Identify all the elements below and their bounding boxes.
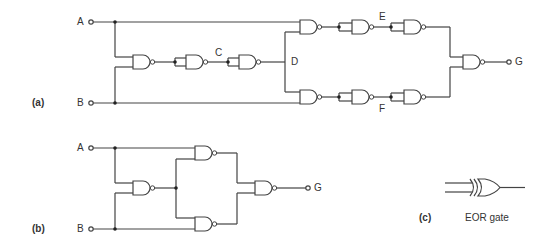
circuit-drawing [0, 0, 554, 243]
logic-diagram: A B C D E F G (a) A B G (b) (c) EOR gate [0, 0, 554, 243]
part-b-label: (b) [32, 224, 45, 234]
node-c-label: C [215, 48, 222, 58]
input-b-label: B [77, 98, 84, 108]
input-a-label-b: A [77, 143, 84, 153]
output-g-label-b: G [314, 183, 322, 193]
junction-dots [113, 20, 393, 231]
eor-gate-caption: EOR gate [465, 213, 509, 223]
input-a-label: A [77, 17, 84, 27]
part-c-label: (c) [419, 213, 431, 223]
xor-gate-symbol [445, 179, 525, 196]
node-f-label: F [379, 104, 385, 114]
input-b-label-b: B [77, 224, 84, 234]
node-d-label: D [291, 57, 298, 67]
circuit-a [89, 20, 511, 105]
circuit-b [89, 146, 310, 231]
output-g-label: G [515, 57, 523, 67]
part-a-label: (a) [32, 98, 44, 108]
node-e-label: E [379, 12, 386, 22]
